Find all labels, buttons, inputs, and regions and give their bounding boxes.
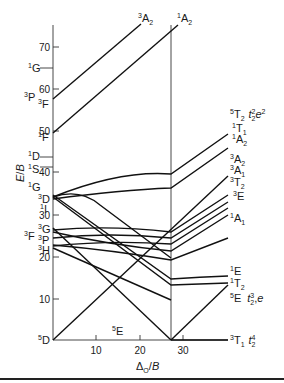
svg-text:5D: 5D	[38, 334, 50, 346]
svg-text:3F: 3F	[38, 98, 49, 110]
svg-text:10: 10	[90, 345, 102, 356]
svg-text:1T2: 1T2	[230, 277, 245, 291]
top-label-1A2: 1A2	[177, 12, 192, 26]
svg-text:1S: 1S	[28, 163, 39, 175]
svg-text:1D: 1D	[28, 150, 40, 162]
svg-text:20: 20	[134, 345, 146, 356]
x-ticks: 10 20 30	[90, 335, 189, 356]
svg-text:3P: 3P	[24, 91, 35, 103]
svg-text:60: 60	[39, 84, 51, 95]
svg-text:1E: 1E	[230, 265, 241, 277]
y-ticks: 10 20 30 40 50 60 70	[39, 42, 59, 305]
inner-label-5E: 5E	[112, 325, 123, 337]
svg-text:3T1t24: 3T1t24	[230, 334, 256, 348]
svg-text:5Et23,e: 5Et23,e	[230, 292, 263, 306]
svg-text:10: 10	[39, 294, 51, 305]
svg-text:5T2t22e2: 5T2t22e2	[230, 108, 266, 122]
y-axis-label: E/B	[14, 164, 26, 182]
x-axis-label: ΔO/B	[136, 360, 159, 374]
svg-text:1F: 1F	[38, 131, 49, 143]
svg-text:1A1: 1A1	[230, 212, 245, 226]
svg-text:1G: 1G	[28, 181, 40, 193]
energy-curves	[53, 24, 228, 340]
svg-text:30: 30	[177, 345, 189, 356]
svg-text:70: 70	[39, 42, 51, 53]
svg-text:1G: 1G	[28, 62, 40, 74]
tanabe-sugano-diagram: 10 20 30 40 50 60 70 10 20 30 ΔO/B E/B	[0, 0, 284, 383]
svg-text:3E: 3E	[233, 190, 244, 202]
svg-text:3T2: 3T2	[230, 176, 245, 190]
right-term-labels: 5T2t22e2 1T1 1A2 3A2 3A1 3T2 3E 1A1 1E 1…	[230, 108, 266, 348]
svg-text:3F: 3F	[24, 230, 35, 242]
svg-text:40: 40	[39, 167, 51, 178]
